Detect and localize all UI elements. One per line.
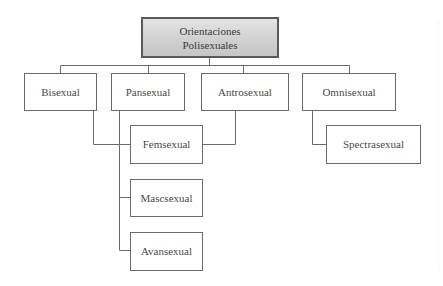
node-label: Avansexual xyxy=(141,245,192,258)
node-label: Pansexual xyxy=(126,86,171,99)
node-bisexual: Bisexual xyxy=(24,73,97,111)
antrosexual-femsexual-connector xyxy=(202,110,236,145)
node-femsexual: Femsexual xyxy=(130,125,203,164)
node-avansexual: Avansexual xyxy=(130,232,203,271)
node-label: Femsexual xyxy=(143,138,191,151)
node-label: Omnisexual xyxy=(322,86,375,99)
node-omnisexual: Omnisexual xyxy=(302,73,396,111)
scan-artifact-divider xyxy=(438,20,440,270)
node-label: Spectrasexual xyxy=(343,138,404,151)
omnisexual-spectrasexual-connector xyxy=(313,110,327,145)
root-label-line2: Polisexuales xyxy=(183,38,238,52)
bisexual-femsexual-connector xyxy=(94,110,131,145)
node-label: Antrosexual xyxy=(218,86,272,99)
root-node-orientaciones-polisexuales: Orientaciones Polisexuales xyxy=(141,17,279,58)
node-spectrasexual: Spectrasexual xyxy=(326,125,421,164)
node-label: Mascsexual xyxy=(141,192,193,205)
node-mascsexual: Mascsexual xyxy=(130,179,203,217)
node-pansexual: Pansexual xyxy=(111,73,185,111)
node-antrosexual: Antrosexual xyxy=(201,73,289,111)
root-label-line1: Orientaciones xyxy=(179,24,240,38)
node-label: Bisexual xyxy=(41,86,80,99)
